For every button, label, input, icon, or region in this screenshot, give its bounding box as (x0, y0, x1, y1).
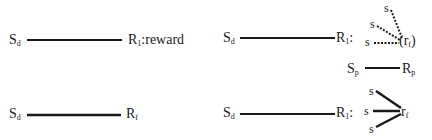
tr-response: R1: (336, 31, 353, 49)
tl-annotation: :reward (141, 32, 184, 47)
br-fan-source-2: s (364, 104, 369, 118)
tr-fan-dotted-2 (377, 26, 400, 40)
br-response: R1: (336, 106, 353, 124)
br-stimulus: Sd (223, 106, 235, 124)
tl-stimulus: Sd (9, 33, 21, 51)
tr-stimulus: Sd (223, 31, 235, 49)
br-fan-source-1: s (369, 84, 374, 98)
br-fan-solid-3 (376, 114, 401, 127)
bl-stimulus: Sd (9, 107, 21, 125)
br-fan-solid-1 (376, 91, 401, 108)
br-fan-target: rf (401, 105, 408, 123)
sp-stimulus: Sp (347, 62, 359, 80)
tr-fan-source-3: s (384, 1, 389, 15)
tr-fan-source-1: s (365, 35, 370, 49)
tr-fan-source-2: s (370, 17, 375, 31)
sp-response: Rp (402, 62, 415, 80)
bl-response: Rf (126, 107, 138, 125)
br-fan-source-3: s (369, 122, 374, 136)
tl-response: R1:reward (128, 33, 184, 51)
connector-lines (0, 0, 432, 140)
tr-fan-target: (rf) (399, 34, 416, 52)
